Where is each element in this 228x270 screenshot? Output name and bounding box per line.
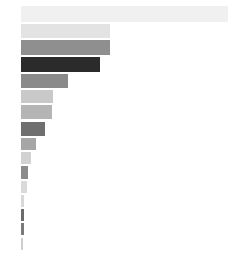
plot-area — [0, 0, 228, 270]
bar-item[interactable] — [21, 195, 24, 207]
bar-item[interactable] — [21, 40, 110, 55]
bar-item[interactable] — [21, 152, 31, 164]
bar-item[interactable] — [21, 166, 28, 179]
bar-item[interactable] — [21, 57, 100, 72]
bar-item[interactable] — [21, 181, 27, 193]
bar-item[interactable] — [21, 6, 228, 22]
bar-item[interactable] — [21, 74, 68, 88]
bar-item[interactable] — [21, 24, 110, 38]
bar-chart — [0, 0, 228, 270]
bar-item[interactable] — [21, 238, 23, 250]
bar-item[interactable] — [21, 90, 53, 103]
bar-item[interactable] — [21, 209, 24, 221]
bar-item[interactable] — [21, 122, 45, 136]
bar-item[interactable] — [21, 223, 24, 235]
bar-item[interactable] — [21, 105, 52, 119]
bar-item[interactable] — [21, 138, 36, 150]
